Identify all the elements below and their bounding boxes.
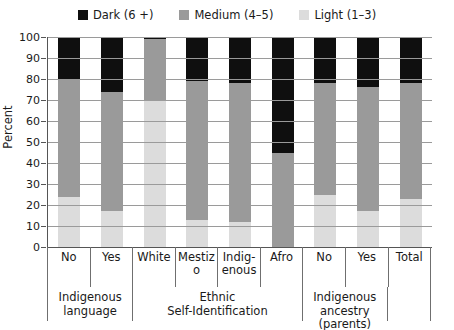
bar-segment[interactable]	[186, 81, 208, 220]
bar-segment[interactable]	[229, 37, 251, 83]
x-axis-category-label: No	[303, 247, 346, 287]
y-axis-tick-mark	[41, 79, 46, 80]
y-axis-tick-label: 90	[26, 52, 40, 65]
y-axis-tick-mark	[41, 142, 46, 143]
legend-label: Medium (4–5)	[194, 8, 273, 22]
bar-segment[interactable]	[314, 37, 336, 83]
legend-swatch-icon	[179, 10, 189, 20]
y-axis-tick-mark	[41, 184, 46, 185]
y-axis-tick-mark	[41, 58, 46, 59]
gridline	[48, 226, 432, 227]
y-axis-tick-label: 50	[26, 136, 40, 149]
y-axis-tick-mark	[41, 37, 46, 38]
gridline	[48, 163, 432, 164]
x-axis-category-label: Yes	[346, 247, 389, 287]
x-axis-category-label: Total	[389, 247, 431, 287]
x-axis-category-label: Yes	[91, 247, 134, 287]
bar-segment[interactable]	[101, 37, 123, 92]
y-axis-tick-label: 30	[26, 178, 40, 191]
y-axis-tick-label: 20	[26, 199, 40, 212]
x-axis-group-row: IndigenouslanguageEthnicSelf-Identificat…	[48, 287, 430, 321]
y-axis-label: Percent	[1, 92, 15, 162]
legend-label: Light (1–3)	[314, 8, 376, 22]
y-axis-tick-mark	[41, 163, 46, 164]
legend-item: Medium (4–5)	[179, 8, 273, 22]
bar-segment[interactable]	[144, 39, 166, 100]
bar-segment[interactable]	[101, 92, 123, 212]
bar-segment[interactable]	[58, 79, 80, 197]
y-axis-tick-label: 80	[26, 73, 40, 86]
gridline	[48, 121, 432, 122]
legend-swatch-icon	[299, 10, 309, 20]
gridline	[48, 142, 432, 143]
gridline	[48, 37, 432, 38]
x-axis: NoYesWhiteMestizoIndig-enousAfroNoYesTot…	[47, 247, 431, 321]
y-axis-tick-mark	[41, 121, 46, 122]
bar-segment[interactable]	[357, 211, 379, 247]
legend-label: Dark (6 +)	[93, 8, 154, 22]
bar-segment[interactable]	[314, 195, 336, 248]
bar-segment[interactable]	[101, 211, 123, 247]
y-axis-tick-label: 70	[26, 94, 40, 107]
legend-swatch-icon	[78, 10, 88, 20]
legend-item: Dark (6 +)	[78, 8, 154, 22]
x-axis-category-label: White	[133, 247, 176, 287]
y-axis-tick-mark	[41, 100, 46, 101]
x-axis-group-label: EthnicSelf-Identification	[133, 287, 302, 321]
x-axis-group-label: Indigenouslanguage	[48, 287, 133, 321]
y-axis-tick-mark	[41, 247, 46, 248]
gridline	[48, 79, 432, 80]
y-axis-tick-label: 60	[26, 115, 40, 128]
bar-segment[interactable]	[272, 153, 294, 248]
x-axis-category-label: No	[48, 247, 91, 287]
x-axis-group-label	[388, 287, 430, 321]
y-axis-tick-label: 100	[19, 31, 40, 44]
y-axis-tick-label: 0	[33, 241, 40, 254]
gridline	[48, 100, 432, 101]
legend-item: Light (1–3)	[299, 8, 376, 22]
y-axis-tick-label: 10	[26, 220, 40, 233]
chart-legend: Dark (6 +)Medium (4–5)Light (1–3)	[0, 8, 454, 22]
y-axis-tick-mark	[41, 226, 46, 227]
x-axis-group-label: Indigenousancestry (parents)	[303, 287, 388, 321]
bar-segment[interactable]	[186, 220, 208, 247]
bar-segment[interactable]	[272, 37, 294, 153]
bar-segment[interactable]	[357, 87, 379, 211]
plot-area	[47, 37, 432, 247]
gridline	[48, 205, 432, 206]
y-axis: Percent 0102030405060708090100	[0, 0, 45, 330]
bar-segment[interactable]	[400, 37, 422, 83]
x-axis-category-row: NoYesWhiteMestizoIndig-enousAfroNoYesTot…	[48, 247, 430, 287]
x-axis-category-label: Mestizo	[176, 247, 219, 287]
bar-segment[interactable]	[144, 100, 166, 247]
bar-segment[interactable]	[186, 37, 208, 81]
gridline	[48, 184, 432, 185]
bar-segment[interactable]	[229, 83, 251, 222]
y-axis-tick-label: 40	[26, 157, 40, 170]
chart-root: Dark (6 +)Medium (4–5)Light (1–3) Percen…	[0, 0, 454, 330]
gridline	[48, 58, 432, 59]
y-axis-tick-mark	[41, 205, 46, 206]
x-axis-category-label: Afro	[261, 247, 304, 287]
x-axis-category-label: Indig-enous	[218, 247, 261, 287]
